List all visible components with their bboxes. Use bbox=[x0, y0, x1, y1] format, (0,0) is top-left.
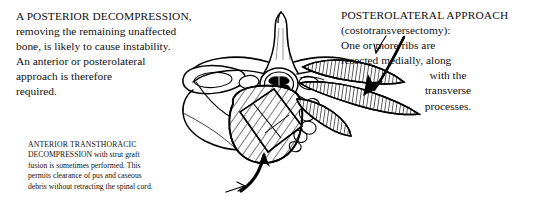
annotation-line: permits clearance of pus and caseous bbox=[28, 171, 230, 181]
annotation-line: One or more ribs are bbox=[341, 38, 555, 53]
annotation-line: with the bbox=[341, 68, 555, 83]
annotation-line: required. bbox=[16, 84, 248, 99]
caseous-debris bbox=[289, 99, 319, 152]
annotation-line: DECOMPRESSION with strut graft bbox=[28, 150, 230, 160]
annotation-line: (costotransversectomy): bbox=[341, 23, 555, 38]
annotation-posterior-decompression-heading: A POSTERIOR DECOMPRESSION, bbox=[16, 9, 248, 24]
annotation-line: transverse bbox=[341, 83, 555, 98]
annotation-line: removing the remaining unaffected bbox=[16, 24, 248, 39]
annotation-anterior-transthoracic: ANTERIOR TRANSTHORACIC DECOMPRESSION wit… bbox=[28, 140, 230, 192]
annotation-line: approach is therefore bbox=[16, 69, 248, 84]
annotation-posterior-decompression: A POSTERIOR DECOMPRESSION, removing the … bbox=[16, 9, 248, 100]
spinous-process bbox=[264, 12, 298, 73]
costovertebral-joint bbox=[300, 77, 324, 80]
pedicle-right bbox=[296, 95, 311, 104]
annotation-posterolateral-approach-heading: POSTEROLATERAL APPROACH bbox=[341, 8, 555, 23]
spinal-canal bbox=[260, 68, 298, 100]
facet-joint-right bbox=[298, 75, 319, 90]
annotation-posterolateral-approach: POSTEROLATERAL APPROACH (costotransverse… bbox=[341, 8, 555, 114]
annotation-line: resected medially, along bbox=[341, 53, 555, 68]
annotation-line: processes. bbox=[341, 99, 555, 114]
annotation-line: debris without retracting the spinal cor… bbox=[28, 182, 230, 192]
annotation-line: fusion is sometimes performed. This bbox=[28, 161, 230, 171]
annotation-anterior-transthoracic-heading: ANTERIOR TRANSTHORACIC bbox=[28, 140, 230, 150]
medical-illustration-figure: A POSTERIOR DECOMPRESSION, removing the … bbox=[0, 0, 559, 207]
annotation-line: An anterior or posterolateral bbox=[16, 54, 248, 69]
anterior-approach-arrow bbox=[241, 152, 270, 191]
pedicle-left bbox=[246, 95, 266, 110]
spinal-cord bbox=[265, 72, 294, 96]
annotation-line: bone, is likely to cause instability. bbox=[16, 39, 248, 54]
